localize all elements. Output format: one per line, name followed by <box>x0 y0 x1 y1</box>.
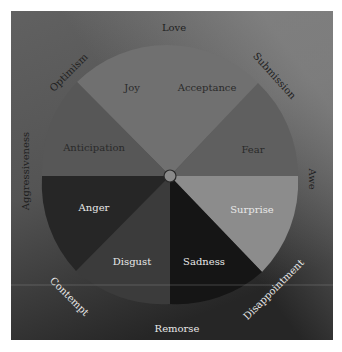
center-hub <box>164 170 176 182</box>
label-love: Love <box>162 22 186 33</box>
label-aggressiveness: Aggressiveness <box>20 132 31 211</box>
label-anticipation: Anticipation <box>62 142 125 153</box>
label-acceptance: Acceptance <box>177 82 237 93</box>
label-joy: Joy <box>123 82 140 93</box>
label-sadness: Sadness <box>183 256 225 267</box>
label-awe: Awe <box>307 167 318 189</box>
label-surprise: Surprise <box>230 204 274 215</box>
emotion-wheel: Joy Acceptance Anticipation Fear Anger S… <box>0 0 342 352</box>
label-fear: Fear <box>241 144 264 155</box>
label-remorse: Remorse <box>155 323 200 334</box>
label-anger: Anger <box>78 202 110 213</box>
label-disgust: Disgust <box>113 256 151 267</box>
